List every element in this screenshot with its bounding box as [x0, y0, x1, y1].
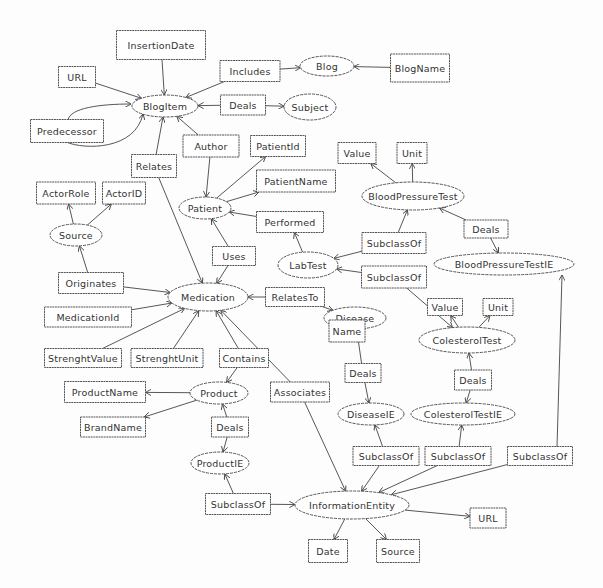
- colesteroltestie-label: ColesterolTestIE: [424, 409, 502, 420]
- unit-col-label: Unit: [488, 302, 508, 313]
- node-subclassof-col: SubclassOf: [362, 266, 427, 288]
- edge-author-to-patient: [206, 157, 210, 197]
- subclassof-bpie-label: SubclassOf: [513, 451, 568, 462]
- deals-product-label: Deals: [216, 422, 244, 433]
- edge-bloodpressuretest-to-unit-bp: [412, 164, 413, 183]
- url-blog-label: URL: [67, 72, 87, 83]
- node-actorid: ActorID: [103, 182, 146, 204]
- deals-col-label: Deals: [459, 375, 487, 386]
- edge-relates-to-blogitem: [156, 117, 163, 155]
- edge-patient-to-patientname: [226, 192, 259, 202]
- performed-label: Performed: [265, 217, 316, 228]
- edge-deals-disease-to-diseaseie: [365, 383, 369, 404]
- includes-label: Includes: [229, 66, 270, 77]
- node-subclassof-colie: SubclassOf: [425, 447, 491, 466]
- edge-url-blog-to-blogitem: [96, 83, 142, 98]
- node-predecessor: Predecessor: [31, 120, 104, 143]
- node-insertion-date: InsertionDate: [117, 31, 206, 60]
- edge-labtest-to-performed: [294, 233, 302, 253]
- edge-deals-blog-to-subject: [266, 106, 285, 107]
- edge-medicationid-to-medication: [132, 303, 172, 310]
- edge-originates-to-source-actor: [79, 246, 87, 273]
- edge-originates-to-medication: [124, 287, 171, 293]
- node-name: Name: [329, 320, 365, 342]
- edge-subclassof-diseaseie-to-informationentity: [362, 466, 380, 492]
- node-subclassof-bpie: SubclassOf: [508, 447, 573, 466]
- edge-author-to-blogitem: [177, 116, 199, 135]
- edge-informationentity-to-date: [334, 519, 345, 540]
- node-medication: Medication: [168, 283, 248, 311]
- node-diseaseie: DiseaseIE: [338, 403, 404, 425]
- node-blogitem: BlogItem: [132, 95, 198, 117]
- edge-predecessor-to-blogitem: [68, 104, 131, 120]
- value-bp-label: Value: [343, 148, 370, 159]
- node-unit-col: Unit: [483, 299, 513, 316]
- blogname-label: BlogName: [395, 63, 446, 74]
- blogitem-label: BlogItem: [143, 101, 187, 112]
- node-actorrole: ActorRole: [37, 182, 96, 204]
- subclassof-productie-label: SubclassOf: [211, 499, 266, 510]
- patient-label: Patient: [188, 203, 223, 214]
- patientid-label: PatientId: [256, 141, 300, 152]
- edge-subclassof-col-to-labtest: [337, 269, 362, 273]
- relatesto-label: RelatesTo: [272, 292, 319, 303]
- ontology-diagram: InsertionDateURLBlogItemIncludesDealsBlo…: [0, 0, 603, 588]
- edge-subclassof-colie-to-informationentity: [379, 466, 438, 493]
- diseaseie-label: DiseaseIE: [347, 409, 395, 420]
- product-label: Product: [200, 388, 238, 399]
- subclassof-col-label: SubclassOf: [367, 272, 422, 283]
- node-deals-bp: Deals: [464, 220, 508, 238]
- node-product: Product: [190, 382, 248, 404]
- node-labtest: LabTest: [278, 252, 338, 278]
- originates-label: Originates: [65, 278, 116, 289]
- informationentity-label: InformationEntity: [309, 500, 395, 511]
- edge-deals-bp-to-bloodpressuretestie: [491, 238, 499, 253]
- node-bloodpressuretest: BloodPressureTest: [362, 182, 464, 210]
- node-subclassof-diseaseie: SubclassOf: [353, 447, 419, 466]
- node-relatesto: RelatesTo: [266, 288, 325, 307]
- node-date: Date: [309, 540, 348, 563]
- actorid-label: ActorID: [106, 188, 143, 199]
- deals-bp-label: Deals: [472, 224, 500, 235]
- edge-relates-to-medication: [159, 178, 203, 284]
- node-source-ie: Source: [377, 540, 420, 563]
- subclassof-diseaseie-label: SubclassOf: [359, 451, 414, 462]
- edge-associates-to-medication: [221, 310, 290, 382]
- strenghtunit-label: StrenghtUnit: [136, 353, 199, 364]
- edge-deals-product-to-product: [223, 404, 227, 417]
- node-strenghtvalue: StrenghtValue: [45, 349, 122, 368]
- medicationid-label: MedicationId: [56, 312, 119, 323]
- edge-subclassof-bp-to-bloodpressuretest: [398, 210, 407, 233]
- subclassof-bp-label: SubclassOf: [367, 238, 422, 249]
- edge-informationentity-to-source-ie: [366, 519, 387, 540]
- source-ie-label: Source: [381, 546, 415, 557]
- node-colesteroltest: ColesterolTest: [419, 327, 515, 353]
- node-author: Author: [183, 135, 239, 157]
- node-colesteroltestie: ColesterolTestIE: [411, 403, 515, 425]
- node-productie: ProductIE: [191, 452, 249, 474]
- edge-uses-to-medication: [217, 266, 228, 284]
- edge-colesteroltest-to-value-col: [451, 316, 459, 328]
- predecessor-label: Predecessor: [37, 126, 97, 137]
- brandname-label: BrandName: [84, 422, 142, 433]
- node-subject: Subject: [284, 94, 336, 120]
- node-deals-blog: Deals: [221, 95, 266, 115]
- node-relates: Relates: [132, 155, 177, 178]
- node-value-col: Value: [428, 299, 463, 316]
- patientname-label: PatientName: [264, 176, 327, 187]
- edge-product-to-brandname: [144, 400, 197, 417]
- edge-deals-product-to-productie: [223, 437, 227, 452]
- edge-includes-to-blog: [280, 68, 300, 69]
- edge-informationentity-to-url-ie: [405, 510, 470, 516]
- node-source-actor: Source: [50, 224, 102, 246]
- edge-subclassof-bpie-to-informationentity: [391, 465, 507, 495]
- node-productname: ProductName: [65, 382, 146, 403]
- value-col-label: Value: [431, 302, 458, 313]
- node-brandname: BrandName: [81, 417, 146, 437]
- edge-performed-to-patient: [229, 212, 256, 217]
- edge-deals-col-to-colesteroltestie: [466, 390, 470, 403]
- node-url-ie: URL: [470, 508, 506, 528]
- edge-strenghtunit-to-medication: [173, 311, 198, 349]
- unit-bp-label: Unit: [402, 148, 422, 159]
- edge-subclassof-diseaseie-to-diseaseie: [375, 425, 383, 447]
